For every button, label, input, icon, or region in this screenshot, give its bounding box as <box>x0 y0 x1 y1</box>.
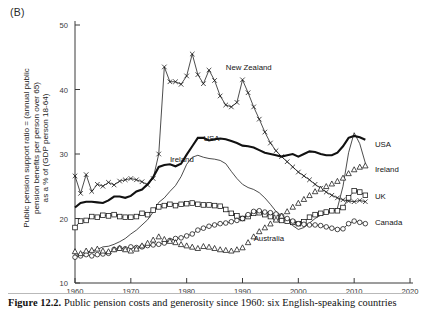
marker-triangle <box>351 167 356 172</box>
marker-x <box>307 178 312 183</box>
marker-square <box>101 213 106 218</box>
marker-circle <box>268 210 273 215</box>
marker-circle <box>190 232 195 237</box>
marker-square <box>346 196 351 201</box>
marker-triangle <box>162 236 167 241</box>
marker-square <box>190 201 195 206</box>
marker-square <box>207 203 212 208</box>
marker-circle <box>151 243 156 248</box>
marker-square <box>123 215 128 220</box>
marker-square <box>84 218 89 223</box>
marker-triangle <box>346 171 351 176</box>
marker-circle <box>235 218 240 223</box>
marker-triangle <box>72 249 77 254</box>
marker-circle <box>240 216 245 221</box>
x-tick-label: 1960 <box>67 287 84 296</box>
marker-square <box>117 214 122 219</box>
y-tick-label: 30 <box>60 150 68 159</box>
figure-caption-text: Public pension costs and generosity sinc… <box>64 297 397 308</box>
series-australia <box>72 163 368 256</box>
marker-square <box>73 225 78 230</box>
marker-x <box>246 90 251 95</box>
marker-square <box>218 204 223 209</box>
marker-triangle <box>307 193 312 198</box>
marker-square <box>89 214 94 219</box>
marker-x <box>190 52 195 57</box>
marker-circle <box>318 223 323 228</box>
marker-square <box>184 201 189 206</box>
marker-circle <box>330 226 335 231</box>
marker-square <box>235 214 240 219</box>
marker-circle <box>290 219 295 224</box>
x-tick-label: 2010 <box>346 287 363 296</box>
marker-square <box>363 193 368 198</box>
marker-square <box>129 215 134 220</box>
marker-square <box>95 215 100 220</box>
series-new-zealand <box>73 52 368 204</box>
marker-x <box>207 68 212 73</box>
figure-panel: (B) Public pension support ratio = (annu… <box>0 0 422 316</box>
marker-square <box>196 202 201 207</box>
marker-square <box>140 211 145 216</box>
marker-x <box>313 182 318 187</box>
marker-triangle <box>201 244 206 249</box>
series-label-usa: USA <box>203 134 220 143</box>
series-label-right-ireland: Ireland <box>375 165 399 174</box>
marker-circle <box>229 219 234 224</box>
marker-triangle <box>363 163 368 168</box>
marker-square <box>112 212 117 217</box>
marker-x <box>290 165 295 170</box>
marker-square <box>313 212 318 217</box>
marker-circle <box>251 209 256 214</box>
marker-x <box>179 82 184 87</box>
marker-x <box>229 105 234 110</box>
series-label-new-zealand: New Zealand <box>226 63 272 72</box>
marker-x <box>196 72 201 77</box>
marker-triangle <box>145 240 150 245</box>
marker-triangle <box>335 178 340 183</box>
y-tick-label: 40 <box>60 86 68 95</box>
marker-square <box>201 203 206 208</box>
marker-x <box>274 148 279 153</box>
marker-triangle <box>234 247 239 252</box>
marker-circle <box>196 228 201 233</box>
marker-triangle <box>257 229 262 234</box>
x-tick-label: 1990 <box>234 287 251 296</box>
marker-x <box>235 100 240 105</box>
marker-square <box>106 214 111 219</box>
marker-circle <box>201 226 206 231</box>
series-line <box>75 136 365 208</box>
marker-x <box>95 182 100 187</box>
line-chart: 10203040501960197019801990200020102020 N… <box>0 0 422 316</box>
series-ireland <box>75 133 365 256</box>
series-usa <box>75 136 365 208</box>
marker-triangle <box>178 242 183 247</box>
marker-x <box>201 81 206 86</box>
marker-triangle <box>312 189 317 194</box>
marker-circle <box>73 255 78 260</box>
marker-triangle <box>296 200 301 205</box>
marker-circle <box>218 221 223 226</box>
figure-number: Figure 12.2. <box>8 297 61 308</box>
marker-circle <box>257 208 262 213</box>
marker-x <box>101 184 106 189</box>
marker-x <box>263 130 268 135</box>
marker-x <box>285 159 290 164</box>
marker-square <box>279 218 284 223</box>
marker-triangle <box>262 225 267 230</box>
series-label-australia: Australia <box>254 234 285 243</box>
marker-circle <box>184 234 189 239</box>
x-tick-label: 1980 <box>178 287 195 296</box>
marker-circle <box>324 225 329 230</box>
marker-triangle <box>324 184 329 189</box>
series-label-right-uk: UK <box>375 192 387 201</box>
series-label-ireland: Ireland <box>170 155 194 164</box>
marker-circle <box>207 224 212 229</box>
marker-circle <box>302 222 307 227</box>
marker-x <box>218 94 223 99</box>
marker-x <box>106 180 111 185</box>
marker-circle <box>346 221 351 226</box>
marker-square <box>335 208 340 213</box>
marker-square <box>318 211 323 216</box>
y-tick-label: 20 <box>60 215 68 224</box>
